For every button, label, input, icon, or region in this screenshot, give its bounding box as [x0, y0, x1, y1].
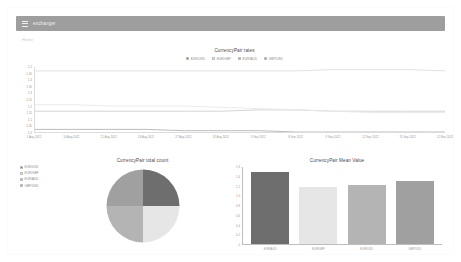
hamburger-menu-icon[interactable]	[22, 21, 28, 27]
y-axis-tick: 0	[238, 243, 240, 247]
dashboard-app: exchanger Home CurrencyPair rates EUR/US…	[8, 8, 453, 254]
legend-swatch-icon	[20, 178, 23, 181]
y-axis-tick: 0.8	[236, 204, 240, 208]
bar-column: EUR/USD	[348, 167, 386, 244]
pie-slice-gbp-usd[interactable]	[106, 170, 142, 206]
line-chart-x-axis: 1 Aug 202214 Aug 202221 Aug 202224 Aug 2…	[34, 135, 445, 147]
legend-swatch-icon	[186, 57, 189, 60]
x-axis-tick: 31 Aug 2022	[213, 135, 229, 139]
y-axis-tick: 1.35	[26, 85, 32, 89]
x-axis-tick: 24 Aug 2022	[138, 135, 154, 139]
y-axis-tick: 0.2	[236, 233, 240, 237]
line-series-svg	[35, 67, 445, 132]
legend-item[interactable]: GBP/USD	[264, 57, 283, 61]
legend-swatch-icon	[212, 57, 215, 60]
pie-chart-panel: CurrencyPair total count	[70, 158, 215, 254]
legend-label: GBP/USD	[25, 184, 39, 188]
line-chart-y-axis: 1.51.451.41.351.31.251.21.151.11.051.0	[16, 67, 34, 133]
bar-chart-title: CurrencyPair Mean Value	[226, 158, 448, 163]
bar-eur-gbp[interactable]	[299, 187, 337, 244]
y-axis-tick: 1.4	[28, 78, 32, 82]
legend-label: EUR/USD	[25, 165, 39, 169]
bar-column: GBP/USD	[396, 167, 434, 244]
x-axis-tick: 12 Nov 2022	[437, 135, 453, 139]
y-axis-tick: 1.2	[236, 185, 240, 189]
pie-slices-svg[interactable]	[105, 168, 181, 244]
line-chart-legend: EUR/USD EUR/GBP EUR/AUD GBP/USD	[16, 57, 453, 61]
legend-label: EUR/AUD	[25, 177, 39, 181]
line-series-eur-usd	[35, 129, 445, 132]
legend-swatch-icon	[238, 57, 241, 60]
bar-chart-panel: CurrencyPair Mean Value 1.61.41.21.00.80…	[226, 158, 448, 254]
line-plot-area	[34, 67, 445, 133]
line-series-eur-gbp	[35, 110, 445, 111]
line-series-eur-aud	[35, 70, 445, 71]
app-title: exchanger	[33, 21, 56, 26]
legend-item[interactable]: EUR/AUD	[20, 177, 39, 181]
line-chart-title: CurrencyPair rates	[16, 48, 453, 53]
x-axis-tick: 14 Aug 2022	[63, 135, 79, 139]
y-axis-tick: 1.4	[236, 175, 240, 179]
y-axis-tick: 0.4	[236, 224, 240, 228]
breadcrumb[interactable]: Home	[22, 37, 33, 42]
legend-item[interactable]: EUR/GBP	[212, 57, 231, 61]
bar-eur-aud[interactable]	[251, 172, 289, 244]
bar-chart-y-axis: 1.61.41.21.00.80.60.40.20	[226, 167, 242, 245]
legend-item[interactable]: EUR/USD	[20, 165, 39, 169]
pie-slice-eur-usd[interactable]	[143, 170, 179, 206]
pie-slice-eur-gbp[interactable]	[143, 206, 179, 242]
x-axis-tick: 9 Sep 2022	[326, 135, 341, 139]
legend-swatch-icon	[20, 172, 23, 175]
bar-column: EUR/GBP	[299, 167, 337, 244]
bar-category-label: EUR/AUD	[264, 247, 277, 251]
x-axis-tick: 21 Aug 2022	[101, 135, 117, 139]
x-axis-tick: 12 Sep 2022	[362, 135, 378, 139]
legend-label: EUR/GBP	[25, 171, 39, 175]
line-chart-panel: CurrencyPair rates EUR/USD EUR/GBP EUR/A…	[16, 48, 453, 150]
x-axis-tick: 3 Sep 2022	[251, 135, 266, 139]
x-axis-tick: 27 Aug 2022	[175, 135, 191, 139]
legend-item[interactable]: GBP/USD	[20, 184, 39, 188]
y-axis-tick: 1.3	[28, 91, 32, 95]
bar-plot-area: EUR/AUDEUR/GBPEUR/USDGBP/USD	[242, 167, 442, 245]
legend-label: GBP/USD	[269, 57, 283, 61]
x-axis-tick: 1 Aug 2022	[27, 135, 42, 139]
line-plot-wrapper: 1.51.451.41.351.31.251.21.151.11.051.0 1…	[16, 67, 453, 150]
legend-label: EUR/AUD	[243, 57, 257, 61]
legend-label: EUR/USD	[191, 57, 205, 61]
y-axis-tick: 1.2	[28, 105, 32, 109]
y-axis-tick: 1.15	[26, 111, 32, 115]
pie-chart-title: CurrencyPair total count	[70, 158, 215, 163]
legend-swatch-icon	[264, 57, 267, 60]
y-axis-tick: 1.45	[26, 72, 32, 76]
bar-eur-usd[interactable]	[348, 185, 386, 244]
x-axis-tick: 6 Sep 2022	[288, 135, 303, 139]
legend-item[interactable]: EUR/GBP	[20, 171, 39, 175]
legend-label: EUR/GBP	[217, 57, 231, 61]
legend-swatch-icon	[20, 166, 23, 169]
bar-gbp-usd[interactable]	[396, 181, 434, 244]
y-axis-tick: 1.6	[236, 165, 240, 169]
y-axis-tick: 1.0	[236, 194, 240, 198]
bar-column: EUR/AUD	[251, 167, 289, 244]
bar-plot-wrapper: 1.61.41.21.00.80.60.40.20 EUR/AUDEUR/GBP…	[226, 167, 448, 254]
y-axis-tick: 1.5	[28, 65, 32, 69]
bar-category-label: EUR/USD	[360, 247, 373, 251]
y-axis-tick: 0.6	[236, 214, 240, 218]
legend-item[interactable]: EUR/AUD	[238, 57, 257, 61]
legend-item[interactable]: EUR/USD	[186, 57, 205, 61]
x-axis-tick: 15 Sep 2022	[399, 135, 415, 139]
pie-chart-legend: EUR/USDEUR/GBPEUR/AUDGBP/USD	[20, 165, 39, 188]
bar-category-label: GBP/USD	[409, 247, 422, 251]
y-axis-tick: 1.1	[28, 118, 32, 122]
legend-swatch-icon	[20, 184, 23, 187]
pie-holder	[70, 168, 215, 248]
y-axis-tick: 1.25	[26, 98, 32, 102]
app-header-bar: exchanger	[16, 16, 445, 31]
y-axis-tick: 1.05	[26, 124, 32, 128]
pie-slice-eur-aud[interactable]	[106, 206, 142, 242]
bar-category-label: EUR/GBP	[312, 247, 325, 251]
